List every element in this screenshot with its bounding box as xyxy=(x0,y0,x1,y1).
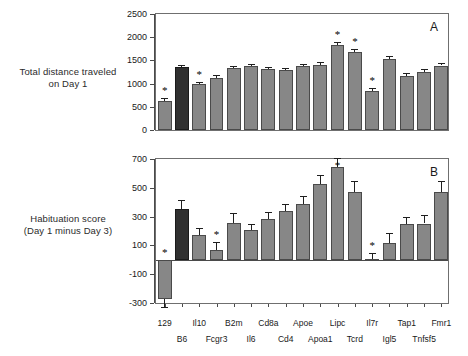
panel-a-bars-layer: ***** xyxy=(156,14,448,130)
error-bar-il10 xyxy=(199,228,200,235)
error-cap-fcgr3 xyxy=(213,75,220,76)
x-tick-mark xyxy=(182,304,183,307)
y-tick-mark xyxy=(150,274,154,275)
y-tick-label: 1500 xyxy=(109,56,147,65)
error-cap-cd4 xyxy=(282,204,289,205)
bar-tnfsf5 xyxy=(417,72,431,130)
y-tick-mark xyxy=(150,245,154,246)
y-tick-label: 1000 xyxy=(109,79,147,88)
panel-b-plot-area: **** B xyxy=(155,158,449,304)
y-tick-mark xyxy=(150,130,154,131)
error-bar-tap1 xyxy=(406,217,407,224)
bar-cd4 xyxy=(279,70,293,130)
x-tick-label-il6: Il6 xyxy=(247,334,256,344)
bar-cd8a xyxy=(261,219,275,259)
bar-tcrd xyxy=(348,52,362,130)
x-tick-label-fcgr3: Fcgr3 xyxy=(206,334,228,344)
bar-cd8a xyxy=(261,69,275,130)
x-tick-mark xyxy=(355,304,356,307)
bar-tap1 xyxy=(400,224,414,260)
x-tick-label-b2m: B2m xyxy=(225,318,242,328)
bar-apoa1 xyxy=(313,65,327,130)
y-tick-mark xyxy=(150,107,154,108)
bar-129 xyxy=(158,260,172,299)
x-tick-mark xyxy=(424,304,425,307)
bar-apoe xyxy=(296,66,310,130)
error-bar-apoa1 xyxy=(320,175,321,184)
error-bar-b2m xyxy=(233,213,234,223)
x-tick-label-il7r: Il7r xyxy=(366,318,378,328)
y-tick-label: 2000 xyxy=(109,33,147,42)
error-cap-tnfsf5 xyxy=(421,69,428,70)
error-cap-b2m xyxy=(230,213,237,214)
error-cap-129 xyxy=(161,98,168,99)
error-cap-il6 xyxy=(248,64,255,65)
x-tick-label-fmr1: Fmr1 xyxy=(431,318,451,328)
x-tick-label-tcrd: Tcrd xyxy=(347,334,363,344)
x-tick-mark xyxy=(303,304,304,307)
significance-star-il10: * xyxy=(196,70,202,78)
y-axis-spine xyxy=(154,159,155,303)
y-tick-mark xyxy=(150,14,154,15)
y-tick-mark xyxy=(150,84,154,85)
y-tick-mark xyxy=(150,60,154,61)
error-cap-apoa1 xyxy=(317,175,324,176)
x-tick-mark xyxy=(407,304,408,307)
x-tick-label-igl5: Igl5 xyxy=(383,334,397,344)
x-tick-mark xyxy=(320,304,321,307)
error-cap-cd4 xyxy=(282,68,289,69)
figure-root: Total distance traveled on Day 1 Habitua… xyxy=(0,0,468,356)
error-bar-apoe xyxy=(303,196,304,204)
y-tick-mark xyxy=(150,37,154,38)
error-cap-il10 xyxy=(196,82,203,83)
error-bar-cd8a xyxy=(268,212,269,220)
bar-cd4 xyxy=(279,211,293,260)
error-bar-cd4 xyxy=(285,204,286,211)
y-tick-label: 700 xyxy=(109,155,147,164)
error-cap-igl5 xyxy=(386,56,393,57)
error-bar-igl5 xyxy=(389,233,390,243)
error-bar-tnfsf5 xyxy=(424,215,425,224)
x-tick-label-il10: Il10 xyxy=(192,318,206,328)
bar-fmr1 xyxy=(434,66,448,130)
error-cap-129 xyxy=(161,307,168,308)
bar-b2m xyxy=(227,223,241,260)
panel-a-letter: A xyxy=(430,20,438,34)
x-tick-label-lipc: Lipc xyxy=(330,318,346,328)
y-tick-label: 300 xyxy=(109,212,147,221)
panel-b-y-axis-label-line2: (Day 1 minus Day 3) xyxy=(0,225,136,237)
x-tick-label-tap1: Tap1 xyxy=(398,318,416,328)
bar-il10 xyxy=(192,235,206,260)
x-tick-label-tnfsf5: Tnfsf5 xyxy=(412,334,436,344)
error-cap-cd8a xyxy=(265,212,272,213)
error-cap-tcrd xyxy=(351,181,358,182)
bar-fcgr3 xyxy=(210,250,224,260)
error-cap-igl5 xyxy=(386,233,393,234)
significance-star-fcgr3: * xyxy=(214,230,220,238)
error-cap-cd8a xyxy=(265,67,272,68)
bar-tnfsf5 xyxy=(417,224,431,260)
y-tick-mark xyxy=(150,188,154,189)
significance-star-129: * xyxy=(162,86,168,94)
x-tick-mark xyxy=(338,304,339,307)
bar-il6 xyxy=(244,66,258,130)
error-cap-fmr1 xyxy=(438,63,445,64)
bar-il6 xyxy=(244,230,258,260)
x-tick-label-129: 129 xyxy=(158,318,172,328)
x-tick-label-cd8a: Cd8a xyxy=(258,318,278,328)
bar-lipc xyxy=(331,45,345,130)
bar-tap1 xyxy=(400,76,414,130)
error-cap-lipc xyxy=(334,42,341,43)
y-tick-label: 100 xyxy=(109,241,147,250)
x-tick-label-cd4: Cd4 xyxy=(278,334,294,344)
error-cap-apoe xyxy=(300,64,307,65)
error-bar-b6 xyxy=(181,200,182,209)
y-tick-label: -300 xyxy=(109,299,147,308)
error-cap-il10 xyxy=(196,228,203,229)
significance-star-129: * xyxy=(162,248,168,256)
error-cap-apoa1 xyxy=(317,62,324,63)
bar-b2m xyxy=(227,68,241,130)
bar-fcgr3 xyxy=(210,78,224,130)
y-tick-label: -100 xyxy=(109,270,147,279)
y-tick-mark xyxy=(150,159,154,160)
